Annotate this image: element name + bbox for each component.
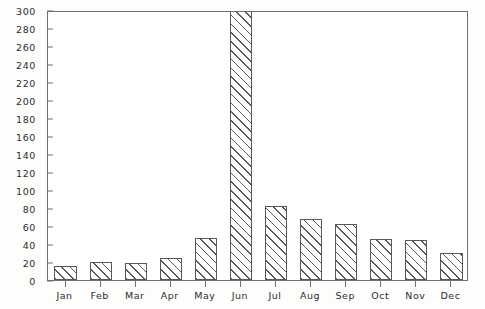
x-tick-mark <box>415 281 416 287</box>
x-tick-label-aug: Aug <box>300 290 320 301</box>
x-tick-label-jan: Jan <box>56 290 72 301</box>
plot-area <box>47 11 468 281</box>
y-tick-mark <box>47 137 53 138</box>
y-tick-label: 300 <box>16 6 36 17</box>
bar-chart-figure: 0204060801001201401601802002202402602803… <box>0 0 485 309</box>
y-tick-label: 0 <box>29 276 36 287</box>
y-tick-label: 280 <box>16 24 36 35</box>
x-tick-mark <box>65 281 66 287</box>
y-tick-mark <box>47 245 53 246</box>
y-tick-mark <box>47 263 53 264</box>
bar-sep <box>335 224 357 280</box>
y-tick-mark <box>47 83 53 84</box>
x-tick-mark <box>170 281 171 287</box>
y-tick-mark <box>47 29 53 30</box>
y-tick-label: 180 <box>16 114 36 125</box>
x-tick-mark <box>100 281 101 287</box>
x-tick-label-jul: Jul <box>269 290 282 301</box>
y-tick-label: 60 <box>23 222 36 233</box>
bar-mar <box>125 263 147 280</box>
y-tick-label: 80 <box>23 204 36 215</box>
y-tick-label: 200 <box>16 96 36 107</box>
y-tick-mark <box>47 101 53 102</box>
y-tick-mark <box>47 227 53 228</box>
bar-aug <box>300 219 322 280</box>
y-tick-mark <box>47 173 53 174</box>
y-tick-label: 120 <box>16 168 36 179</box>
y-tick-mark <box>47 11 53 12</box>
x-tick-mark <box>380 281 381 287</box>
y-tick-label: 140 <box>16 150 36 161</box>
x-tick-label-dec: Dec <box>441 290 461 301</box>
x-tick-mark <box>275 281 276 287</box>
bar-jul <box>265 206 287 280</box>
y-tick-mark <box>47 65 53 66</box>
y-tick-label: 20 <box>23 258 36 269</box>
x-tick-label-feb: Feb <box>90 290 108 301</box>
bars-layer <box>48 12 467 280</box>
y-tick-mark <box>47 47 53 48</box>
bar-feb <box>90 262 112 280</box>
y-tick-label: 160 <box>16 132 36 143</box>
x-tick-mark <box>450 281 451 287</box>
x-tick-mark <box>345 281 346 287</box>
y-tick-mark <box>47 119 53 120</box>
x-tick-label-sep: Sep <box>336 290 355 301</box>
x-tick-label-apr: Apr <box>161 290 179 301</box>
y-tick-label: 100 <box>16 186 36 197</box>
y-tick-label: 260 <box>16 42 36 53</box>
bar-dec <box>440 253 462 280</box>
bar-oct <box>370 239 392 280</box>
y-tick-mark <box>47 281 53 282</box>
y-axis: 0204060801001201401601802002202402602803… <box>0 0 47 309</box>
bar-jan <box>54 266 76 280</box>
x-tick-label-mar: Mar <box>125 290 144 301</box>
bar-apr <box>160 258 182 280</box>
x-tick-mark <box>205 281 206 287</box>
y-tick-label: 40 <box>23 240 36 251</box>
bar-may <box>195 238 217 280</box>
y-tick-mark <box>47 209 53 210</box>
x-tick-label-nov: Nov <box>405 290 425 301</box>
y-tick-mark <box>47 191 53 192</box>
x-tick-label-oct: Oct <box>371 290 389 301</box>
bar-jun <box>230 11 252 280</box>
x-tick-mark <box>135 281 136 287</box>
y-tick-mark <box>47 155 53 156</box>
x-tick-label-may: May <box>194 290 215 301</box>
x-tick-label-jun: Jun <box>232 290 248 301</box>
x-tick-mark <box>240 281 241 287</box>
x-tick-mark <box>310 281 311 287</box>
bar-nov <box>405 240 427 280</box>
y-tick-label: 240 <box>16 60 36 71</box>
y-tick-label: 220 <box>16 78 36 89</box>
